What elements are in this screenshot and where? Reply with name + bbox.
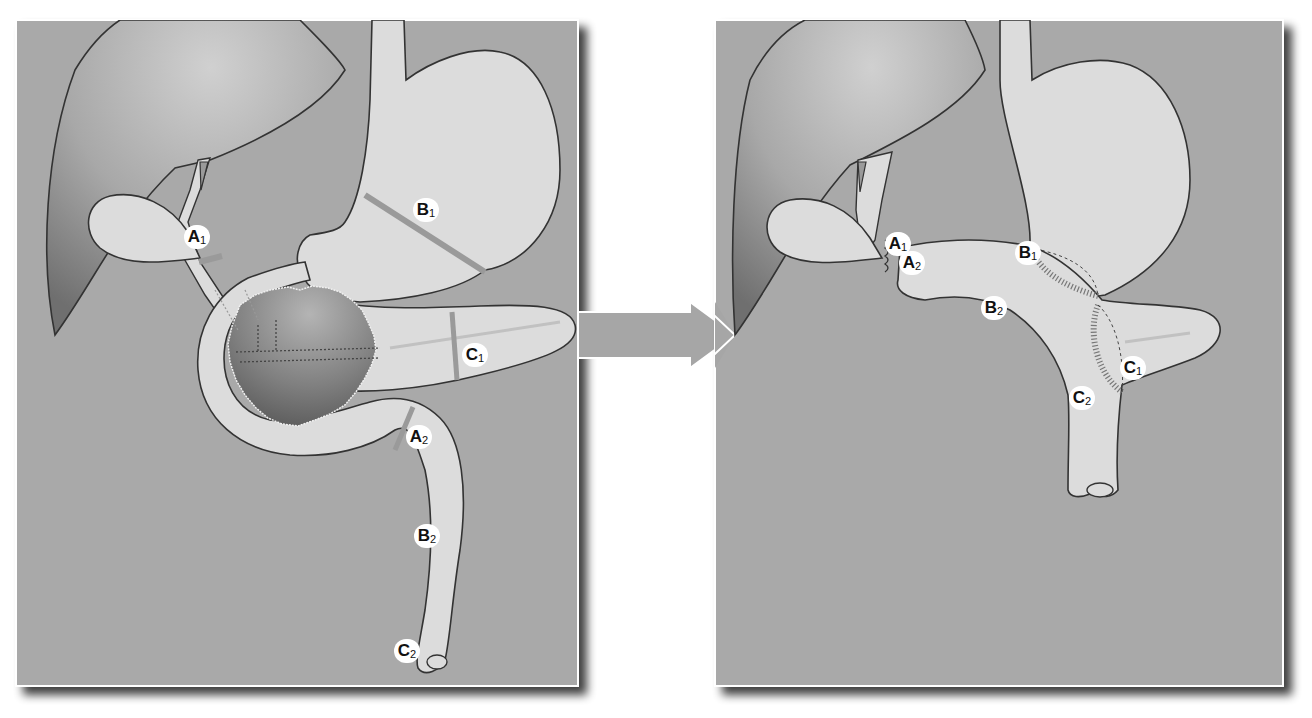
jejunum-end: [427, 655, 447, 669]
after-panel: [700, 20, 1283, 686]
diagram-canvas: A1B1C1A2B2C2 A1A2B1B2C1C2: [0, 0, 1312, 718]
label-b2: B2: [981, 296, 1007, 320]
label-subscript: 1: [429, 207, 435, 219]
label-a2: A2: [899, 251, 925, 275]
label-letter: C: [1073, 388, 1085, 407]
label-subscript: 1: [478, 352, 484, 364]
label-letter: B: [985, 298, 997, 317]
label-letter: B: [1019, 243, 1031, 262]
label-letter: C: [466, 345, 478, 364]
label-c1: C1: [462, 343, 488, 367]
label-subscript: 2: [1085, 395, 1091, 407]
label-letter: A: [188, 227, 200, 246]
label-a2: A2: [406, 425, 432, 449]
label-b1: B1: [1015, 241, 1041, 265]
label-a1: A1: [184, 225, 210, 249]
whipple-diagram: [0, 0, 1312, 718]
label-subscript: 2: [410, 648, 416, 660]
label-letter: A: [410, 427, 422, 446]
label-letter: B: [417, 200, 429, 219]
label-letter: B: [418, 526, 430, 545]
label-subscript: 2: [422, 434, 428, 446]
label-subscript: 2: [915, 260, 921, 272]
label-letter: C: [398, 641, 410, 660]
jejunum-end: [1087, 483, 1113, 497]
label-letter: A: [889, 234, 901, 253]
label-subscript: 1: [1031, 250, 1037, 262]
label-subscript: 2: [997, 305, 1003, 317]
label-c2: C2: [1069, 386, 1095, 410]
label-subscript: 1: [1136, 365, 1142, 377]
label-letter: C: [1124, 358, 1136, 377]
label-b2: B2: [414, 524, 440, 548]
label-letter: A: [903, 253, 915, 272]
label-subscript: 2: [430, 533, 436, 545]
transition-arrow: [578, 302, 735, 368]
before-panel: [16, 20, 578, 686]
label-c1: C1: [1120, 356, 1146, 380]
label-subscript: 1: [200, 234, 206, 246]
label-b1: B1: [413, 198, 439, 222]
label-c2: C2: [394, 639, 420, 663]
